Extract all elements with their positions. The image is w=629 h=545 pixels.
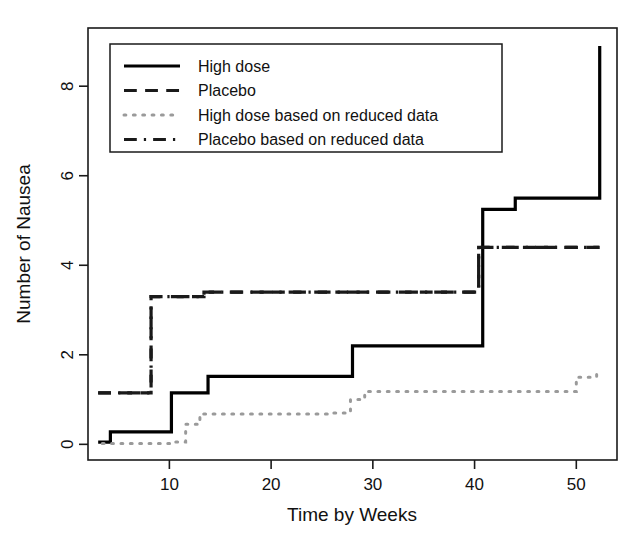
y-axis-title: Number of Nausea [13,164,34,324]
y-tick-label: 8 [59,81,78,90]
legend-label: Placebo [198,82,256,99]
x-tick-label: 10 [160,475,179,494]
y-tick-label: 4 [59,261,78,270]
x-tick-label: 40 [465,475,484,494]
legend-label: High dose based on reduced data [198,107,438,124]
x-tick-label: 30 [363,475,382,494]
x-axis-title: Time by Weeks [287,504,417,525]
x-tick-label: 50 [567,475,586,494]
legend-label: High dose [198,58,270,75]
x-tick-label: 20 [262,475,281,494]
nausea-step-chart: 02468 1020304050 Time by Weeks Number of… [0,0,629,545]
chart-figure: 02468 1020304050 Time by Weeks Number of… [0,0,629,545]
y-tick-label: 2 [59,350,78,359]
legend-label: Placebo based on reduced data [198,131,424,148]
y-tick-label: 6 [59,171,78,180]
y-tick-label: 0 [59,440,78,449]
chart-legend: High dosePlaceboHigh dose based on reduc… [110,44,502,152]
